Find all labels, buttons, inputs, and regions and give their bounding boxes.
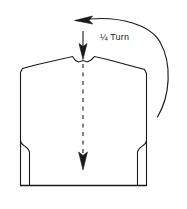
quarter-turn-diagram: ¼ Turn [0,0,187,209]
lower-arrowhead-icon [79,152,88,170]
diagram-canvas: ¼ Turn [0,0,187,209]
quarter-turn-arrowhead-icon [75,16,93,24]
left-underarm-seam [21,141,30,186]
right-underarm-seam [138,141,147,186]
quarter-turn-label: ¼ Turn [100,32,129,42]
